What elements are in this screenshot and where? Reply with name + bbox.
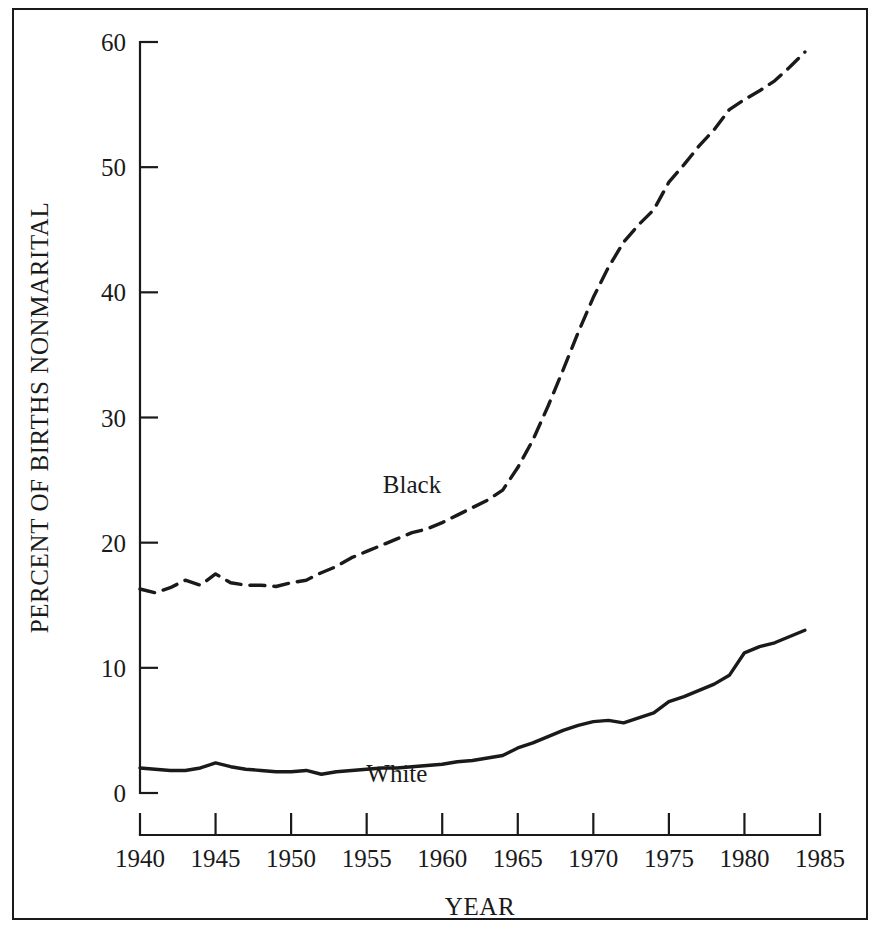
x-tick-label: 1955	[342, 845, 392, 872]
data-series-group	[140, 52, 805, 774]
series-line-white	[140, 630, 805, 774]
y-tick-label: 60	[101, 29, 126, 56]
x-tick-label: 1965	[493, 845, 543, 872]
x-tick-label: 1950	[266, 845, 316, 872]
y-tick-label: 20	[101, 530, 126, 557]
x-tick-label: 1975	[644, 845, 694, 872]
series-annotations: BlackWhite	[366, 471, 441, 787]
series-line-black	[140, 52, 805, 593]
x-tick-label: 1980	[719, 845, 769, 872]
x-axis-title: YEAR	[445, 893, 515, 920]
y-tick-label: 0	[114, 780, 127, 807]
figure-container: 0102030405060 19401945195019551960196519…	[0, 0, 874, 946]
line-chart: 0102030405060 19401945195019551960196519…	[0, 0, 874, 946]
y-tick-label: 50	[101, 154, 126, 181]
series-label-white: White	[366, 760, 427, 787]
series-label-black: Black	[383, 471, 442, 498]
y-axis-title: PERCENT OF BIRTHS NONMARITAL	[26, 202, 53, 634]
x-tick-label: 1940	[115, 845, 165, 872]
y-tick-label: 10	[101, 655, 126, 682]
y-axis-tick-labels: 0102030405060	[101, 29, 126, 807]
x-tick-label: 1960	[417, 845, 467, 872]
x-axis-tick-labels: 1940194519501955196019651970197519801985	[115, 845, 845, 872]
y-axis-ticks	[140, 42, 158, 793]
x-tick-label: 1985	[795, 845, 845, 872]
x-tick-label: 1945	[191, 845, 241, 872]
x-axis-ticks	[140, 813, 820, 835]
x-tick-label: 1970	[568, 845, 618, 872]
y-tick-label: 30	[101, 405, 126, 432]
y-tick-label: 40	[101, 279, 126, 306]
